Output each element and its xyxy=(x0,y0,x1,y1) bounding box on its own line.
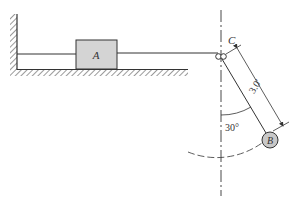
length-label: 3.0′ xyxy=(246,77,263,95)
wall-hatch xyxy=(10,14,17,70)
angle-label: 30° xyxy=(225,122,239,133)
floor-hatch xyxy=(10,70,188,76)
block-a-label: A xyxy=(92,49,100,61)
angle-arc xyxy=(221,107,251,115)
pendulum-block-diagram: A C B 3.0′ 30° xyxy=(0,0,301,201)
bob-b-label: B xyxy=(267,135,273,146)
swing-path-arc xyxy=(188,143,262,158)
pulley-c-right xyxy=(221,54,227,60)
dimension-extension-top xyxy=(226,45,241,54)
pulley-c-label: C xyxy=(228,34,236,46)
